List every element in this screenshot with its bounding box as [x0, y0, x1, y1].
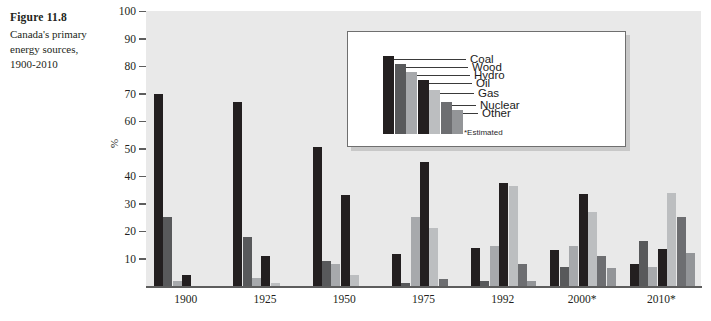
- y-axis-tick-label: 70: [125, 88, 137, 100]
- y-axis-tick-label: 30: [125, 198, 137, 210]
- y-axis: 100908070605040302010: [96, 0, 146, 300]
- bar-wood: [163, 217, 172, 286]
- bar-nuclear: [518, 264, 527, 286]
- bar-wood: [401, 283, 410, 286]
- bar-gas: [271, 283, 280, 286]
- legend-leader-line: [394, 59, 466, 60]
- bar-other: [686, 253, 695, 286]
- legend-label-gas: Gas: [478, 87, 499, 99]
- bar-coal: [313, 147, 322, 286]
- bar-oil: [579, 194, 588, 286]
- bar-oil: [499, 183, 508, 286]
- y-axis-tick: 30: [96, 198, 146, 210]
- y-axis-tick-label: 40: [125, 170, 137, 182]
- bar-gas: [429, 228, 438, 286]
- bar-coal: [550, 250, 559, 286]
- y-axis-tick-mark: [139, 258, 146, 260]
- figure-description: Canada's primary energy sources, 1900-20…: [10, 27, 102, 73]
- bar-other: [527, 281, 536, 287]
- bar-oil: [341, 195, 350, 286]
- bar-wood: [322, 261, 331, 286]
- bar-group: [154, 11, 219, 286]
- legend-leader-line: [417, 75, 470, 76]
- figure-caption: Figure 11.8 Canada's primary energy sour…: [10, 10, 102, 72]
- bar-hydro: [569, 246, 578, 286]
- legend-label-other: Other: [482, 107, 511, 119]
- legend-leader-line: [452, 105, 477, 106]
- bar-coal: [471, 248, 480, 287]
- bar-oil: [182, 275, 191, 286]
- y-axis-tick-mark: [139, 66, 146, 68]
- bar-nuclear: [597, 256, 606, 286]
- figure-number: Figure 11.8: [10, 10, 102, 26]
- bar-oil: [658, 249, 667, 286]
- bar-hydro: [490, 246, 499, 286]
- x-axis-label: 1975: [389, 293, 459, 305]
- bar-coal: [392, 254, 401, 286]
- bar-wood: [243, 237, 252, 287]
- bar-oil: [261, 256, 270, 286]
- x-axis-label: 2010*: [626, 293, 696, 305]
- y-axis-tick-mark: [139, 231, 146, 233]
- legend-swatch-wood: [395, 64, 406, 134]
- y-axis-tick-label: 50: [125, 143, 137, 155]
- bar-hydro: [648, 267, 657, 286]
- bar-gas: [667, 193, 676, 287]
- y-axis-tick-label: 20: [125, 225, 137, 237]
- bar-hydro: [411, 217, 420, 286]
- y-axis-tick: 60: [96, 115, 146, 127]
- legend-swatch-coal: [383, 56, 394, 134]
- y-axis-tick-mark: [139, 176, 146, 178]
- y-axis-tick: 50: [96, 143, 146, 155]
- legend-swatch-hydro: [406, 72, 417, 134]
- figure-root: Figure 11.8 Canada's primary energy sour…: [0, 0, 711, 321]
- y-axis-tick-label: 80: [125, 60, 137, 72]
- bar-hydro: [173, 281, 182, 287]
- x-axis-line: [146, 286, 702, 288]
- x-axis-label: 2000*: [547, 293, 617, 305]
- y-axis-tick-label: 10: [125, 253, 137, 265]
- bar-coal: [630, 264, 639, 286]
- bar-wood: [639, 241, 648, 286]
- legend-footnote: *Estimated: [464, 128, 503, 137]
- y-axis-tick-label: 100: [119, 5, 136, 17]
- y-axis-tick: 100: [96, 5, 146, 17]
- x-axis-label: 1900: [151, 293, 221, 305]
- y-axis-tick: 80: [96, 60, 146, 72]
- y-axis-tick-mark: [139, 93, 146, 95]
- y-axis-tick-mark: [139, 38, 146, 40]
- y-axis-tick-mark: [139, 203, 146, 205]
- bar-wood: [560, 267, 569, 286]
- bar-nuclear: [677, 217, 686, 286]
- x-axis-label: 1925: [230, 293, 300, 305]
- bar-other: [607, 268, 616, 286]
- bar-coal: [154, 94, 163, 287]
- bar-gas: [509, 186, 518, 286]
- y-axis-tick: 10: [96, 253, 146, 265]
- legend-leader-line: [429, 83, 473, 84]
- legend-leader-line: [463, 113, 478, 114]
- y-axis-tick-mark: [139, 121, 146, 123]
- y-axis-tick: 70: [96, 88, 146, 100]
- y-axis-tick-mark: [139, 148, 146, 150]
- bar-hydro: [331, 264, 340, 286]
- legend-inset: CoalWoodHydroOilGasNuclearOther *Estimat…: [347, 31, 626, 147]
- x-axis-label: 1950: [309, 293, 379, 305]
- bar-hydro: [252, 278, 261, 286]
- legend-swatch-gas: [429, 90, 440, 134]
- y-axis-label: %: [108, 139, 120, 148]
- bar-group: [630, 11, 695, 286]
- y-axis-tick-label: 60: [125, 115, 137, 127]
- bar-gas: [350, 275, 359, 286]
- bar-gas: [588, 212, 597, 286]
- y-axis-tick-mark: [139, 11, 146, 13]
- x-axis-labels: 190019251950197519922000*2010*: [146, 293, 701, 313]
- y-axis-tick: 40: [96, 170, 146, 182]
- legend-swatch-oil: [418, 80, 429, 134]
- y-axis-tick-label: 90: [125, 33, 137, 45]
- legend-swatch-other: [452, 110, 463, 134]
- x-axis-label: 1992: [468, 293, 538, 305]
- bar-group: [233, 11, 298, 286]
- y-axis-tick: 20: [96, 225, 146, 237]
- y-axis-tick: 90: [96, 33, 146, 45]
